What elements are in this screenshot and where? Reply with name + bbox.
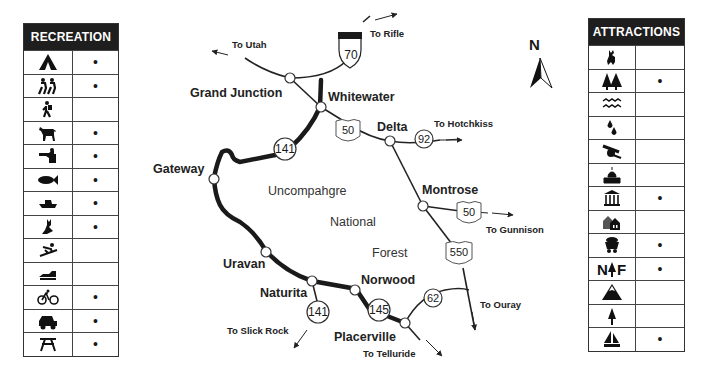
marker-naturita <box>307 276 317 286</box>
us50-label-a: 50 <box>336 124 360 136</box>
co141-label-a: 141 <box>273 142 297 156</box>
co141-label-b: 141 <box>306 305 330 319</box>
co145-label: 145 <box>367 303 391 317</box>
marker-gateway <box>209 174 219 184</box>
city-grand-junction: Grand Junction <box>190 86 282 100</box>
marker-norwood <box>350 285 360 295</box>
city-whitewater: Whitewater <box>328 90 395 104</box>
marker-montrose <box>418 201 428 211</box>
marker-uravan <box>261 247 271 257</box>
dest-gunnison: To Gunnison <box>486 224 544 235</box>
city-markers <box>209 73 428 328</box>
city-norwood: Norwood <box>361 273 415 287</box>
marker-grand-junction <box>285 73 295 83</box>
city-delta: Delta <box>377 120 408 134</box>
co92-label: 92 <box>414 133 434 145</box>
dest-telluride: To Telluride <box>363 348 415 359</box>
city-uravan: Uravan <box>223 257 265 271</box>
marker-whitewater <box>316 102 326 112</box>
forest-label-3: Forest <box>372 246 407 260</box>
dest-slick-rock: To Slick Rock <box>227 325 289 336</box>
dest-utah: To Utah <box>232 39 267 50</box>
city-montrose: Montrose <box>422 183 478 197</box>
city-gateway: Gateway <box>153 162 204 176</box>
us50-label-b: 50 <box>457 206 481 218</box>
i70-label: 70 <box>341 48 361 62</box>
dest-ouray: To Ouray <box>480 299 521 310</box>
forest-label-1: Uncompahgre <box>268 184 347 198</box>
dest-hotchkiss: To Hotchkiss <box>434 118 493 129</box>
north-arrow-icon <box>530 58 552 88</box>
us550-label: 550 <box>446 246 472 258</box>
north-label: N <box>529 36 540 53</box>
forest-label-2: National <box>330 215 376 229</box>
dest-rifle: To Rifle <box>370 28 404 39</box>
city-placerville: Placerville <box>334 330 396 344</box>
marker-placerville <box>400 318 410 328</box>
marker-delta <box>385 136 395 146</box>
co62-label: 62 <box>423 292 443 304</box>
city-naturita: Naturita <box>260 286 307 300</box>
